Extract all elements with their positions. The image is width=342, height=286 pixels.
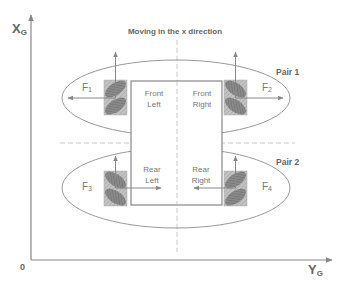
force-label-f1: F1 <box>82 82 92 93</box>
origin-label: 0 <box>20 262 25 272</box>
mecanum-force-diagram: XG YG 0 Moving in the x direction Pair 1… <box>0 0 342 286</box>
pair-2-label: Pair 2 <box>276 157 299 167</box>
pair-1-label: Pair 1 <box>276 67 299 77</box>
diagram-title: Moving in the x direction <box>128 27 222 36</box>
force-label-f4: F4 <box>262 181 272 192</box>
force-label-f3: F3 <box>82 181 92 192</box>
horizontal-axis-label: YG <box>308 262 323 278</box>
force-label-f2: F2 <box>262 82 272 93</box>
vertical-axis-label: XG <box>12 21 27 37</box>
